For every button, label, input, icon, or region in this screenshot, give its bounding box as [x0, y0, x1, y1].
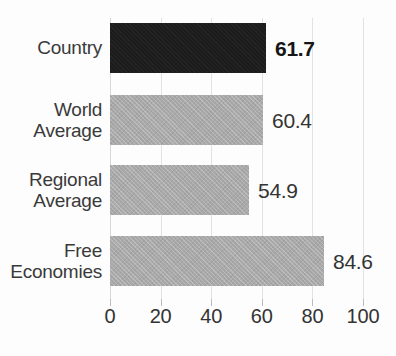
category-label-line: Average: [33, 190, 102, 212]
bar-chart: Country World Average Regional Average F…: [0, 0, 396, 356]
value-label-regional-average: 54.9: [258, 180, 298, 201]
category-label-world-average: World Average: [0, 95, 102, 145]
value-label-country: 61.7: [275, 38, 315, 59]
x-tick-label-80: 80: [301, 306, 323, 326]
bar-regional-average[interactable]: [110, 165, 249, 215]
bar-free-economies[interactable]: [110, 236, 324, 286]
x-tick-label-0: 0: [105, 306, 116, 326]
bar-country[interactable]: [110, 23, 266, 73]
x-axis: 0 20 40 60 80 100: [0, 306, 396, 334]
category-label-line: Regional: [29, 169, 102, 191]
x-tick-label-40: 40: [200, 306, 222, 326]
value-label-free-economies: 84.6: [333, 251, 373, 272]
x-tick-label-100: 100: [347, 306, 380, 326]
category-label-free-economies: Free Economies: [0, 236, 102, 286]
bar-world-average[interactable]: [110, 95, 263, 145]
category-label-regional-average: Regional Average: [0, 165, 102, 215]
category-label-line: Free: [64, 240, 102, 262]
x-tick-label-20: 20: [150, 306, 172, 326]
x-tick-label-60: 60: [251, 306, 273, 326]
plot-area: [110, 18, 363, 299]
category-label-country: Country: [0, 23, 102, 73]
category-label-line: Country: [37, 37, 102, 59]
category-label-line: World: [54, 99, 102, 121]
category-label-line: Average: [33, 120, 102, 142]
value-label-world-average: 60.4: [272, 110, 312, 131]
category-label-line: Economies: [10, 261, 102, 283]
